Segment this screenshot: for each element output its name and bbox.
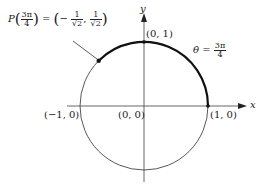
p-y-denominator: √2 (90, 20, 102, 28)
p-argument: 3π4 (21, 11, 33, 28)
theta-label: θ = 3π 4 (193, 42, 226, 59)
theta-equals: = (202, 44, 210, 55)
point-right-label: (1, 0) (210, 110, 237, 120)
p-arg-denominator: 4 (21, 20, 33, 28)
point-top-dot (142, 40, 146, 44)
point-left-label: (−1, 0) (44, 110, 79, 120)
y-axis-arrow-icon (141, 13, 147, 22)
y-axis-label: y (140, 4, 146, 14)
theta-fraction: 3π 4 (214, 42, 226, 59)
theta-arc (99, 42, 208, 106)
origin-label: (0, 0) (118, 110, 145, 120)
theta-denominator: 4 (214, 51, 226, 59)
p-coordinate-label: P(3π4) = (− 1√2, 1√2) (8, 11, 108, 28)
p-leader-line (73, 41, 97, 59)
p-x-fraction: 1√2 (71, 11, 83, 28)
unit-circle-figure (0, 0, 264, 191)
p-comma: , (83, 13, 86, 24)
p-x-denominator: √2 (71, 20, 83, 28)
p-x-sign: − (59, 13, 67, 24)
p-y-fraction: 1√2 (90, 11, 102, 28)
p-function: P (8, 13, 15, 24)
point-right-dot (206, 104, 210, 108)
point-top-label: (0, 1) (146, 29, 173, 39)
x-axis-label: x (250, 100, 256, 110)
point-p-dot (97, 59, 101, 63)
theta-symbol: θ (193, 44, 199, 55)
x-axis-arrow-icon (238, 103, 247, 109)
p-equals: = (42, 13, 50, 24)
